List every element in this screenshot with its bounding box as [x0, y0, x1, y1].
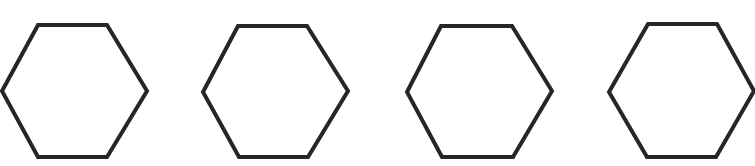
hexagon-2 — [203, 26, 348, 157]
hexagon-row-figure — [0, 0, 755, 166]
figure-canvas — [0, 0, 755, 166]
hexagon-1 — [2, 25, 147, 157]
hexagon-3 — [407, 26, 552, 157]
hexagon-4 — [609, 24, 754, 157]
